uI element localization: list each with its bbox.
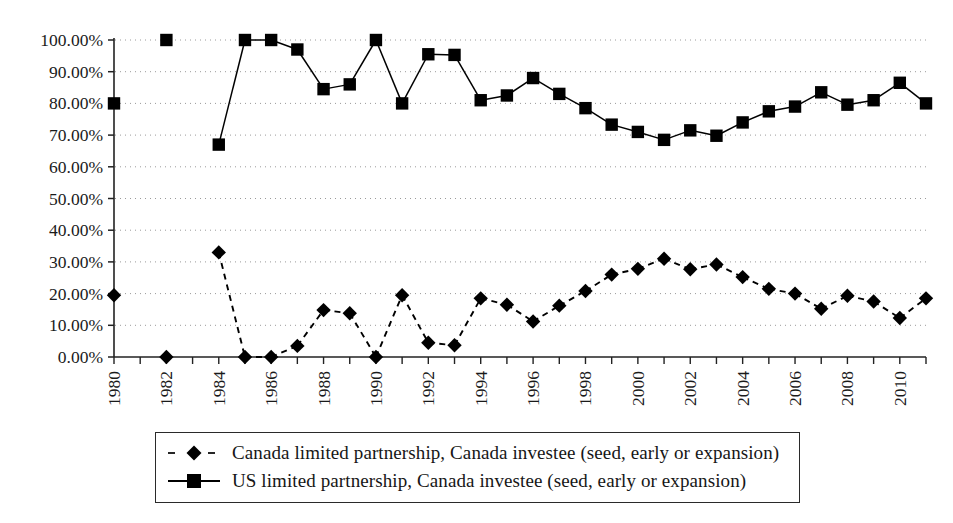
x-axis-tick-labels: 1980198219841986198819901992199419961998… — [104, 371, 910, 406]
x-tick-label: 2000 — [628, 371, 648, 406]
series-line-segment — [219, 40, 245, 145]
data-point-marker — [578, 284, 592, 298]
data-point-marker — [264, 350, 278, 364]
y-axis-ticks — [108, 40, 114, 357]
data-point-marker — [579, 102, 591, 114]
series-line-segment — [219, 252, 245, 357]
gridlines — [115, 40, 926, 325]
data-point-marker — [160, 34, 172, 46]
data-point-marker — [840, 289, 854, 303]
data-point-marker — [290, 339, 304, 353]
data-point-marker — [632, 126, 644, 138]
data-point-marker — [763, 105, 775, 117]
data-point-marker — [762, 282, 776, 296]
data-point-marker — [683, 262, 697, 276]
data-point-marker — [553, 88, 565, 100]
data-point-marker — [893, 311, 907, 325]
data-point-marker — [316, 303, 330, 317]
data-point-marker — [735, 270, 749, 284]
series-line-segment — [455, 298, 481, 345]
x-tick-label: 2006 — [785, 371, 805, 406]
series-line-segment — [350, 40, 376, 84]
x-tick-label: 1996 — [523, 371, 543, 406]
x-axis-ticks — [114, 357, 926, 364]
data-point-marker — [291, 43, 303, 55]
legend-item-us: US limited partnership, Canada investee … — [166, 467, 789, 495]
data-point-marker — [710, 130, 722, 142]
data-point-marker — [448, 49, 460, 61]
data-point-marker — [344, 78, 356, 90]
plot-area: 0.00%10.00%20.00%30.00%40.00%50.00%60.00… — [0, 0, 953, 430]
data-point-marker — [475, 94, 487, 106]
data-point-marker — [500, 297, 514, 311]
series-line-segment — [297, 310, 323, 346]
data-point-marker — [447, 338, 461, 352]
data-point-marker — [527, 72, 539, 84]
series-line-segment — [402, 54, 428, 103]
data-point-marker — [369, 350, 383, 364]
data-point-marker — [605, 118, 617, 130]
data-point-marker — [396, 97, 408, 109]
series-line-segment — [350, 313, 376, 357]
x-tick-label: 1988 — [314, 371, 334, 406]
data-point-marker — [866, 294, 880, 308]
y-axis-tick-labels: 0.00%10.00%20.00%30.00%40.00%50.00%60.00… — [40, 30, 103, 367]
data-point-marker — [920, 97, 932, 109]
chart-figure: 0.00%10.00%20.00%30.00%40.00%50.00%60.00… — [0, 0, 953, 523]
y-tick-label: 80.00% — [49, 93, 103, 113]
data-point-marker — [894, 77, 906, 89]
series-line-segment — [376, 295, 402, 357]
x-tick-label: 1984 — [209, 371, 229, 406]
data-point-marker — [526, 314, 540, 328]
data-point-marker — [421, 336, 435, 350]
x-tick-label: 1986 — [261, 371, 281, 406]
x-tick-label: 2010 — [890, 371, 910, 406]
data-point-marker — [657, 252, 671, 266]
data-point-marker — [788, 286, 802, 300]
y-tick-label: 40.00% — [49, 220, 103, 240]
data-point-marker — [658, 134, 670, 146]
x-tick-label: 2004 — [733, 371, 753, 406]
y-tick-label: 60.00% — [49, 157, 103, 177]
data-point-marker — [317, 83, 329, 95]
data-point-marker — [814, 302, 828, 316]
line-chart-svg: 0.00%10.00%20.00%30.00%40.00%50.00%60.00… — [0, 0, 953, 430]
legend-label-canada: Canada limited partnership, Canada inves… — [222, 442, 779, 464]
data-point-marker — [867, 94, 879, 106]
data-point-marker — [709, 257, 723, 271]
data-point-marker — [343, 306, 357, 320]
data-point-marker — [212, 245, 226, 259]
data-point-marker — [239, 34, 251, 46]
series-line-segment — [376, 40, 402, 103]
legend-label-us: US limited partnership, Canada investee … — [222, 470, 746, 492]
data-point-marker — [265, 34, 277, 46]
x-tick-label: 2002 — [680, 371, 700, 406]
x-tick-label: 1980 — [104, 371, 124, 406]
x-tick-label: 1998 — [575, 371, 595, 406]
x-tick-label: 1992 — [418, 371, 438, 406]
data-point-marker — [631, 262, 645, 276]
legend-item-canada: Canada limited partnership, Canada inves… — [166, 439, 789, 467]
legend-swatch-square-icon — [166, 471, 222, 491]
data-point-marker — [841, 98, 853, 110]
data-point-marker — [238, 350, 252, 364]
x-tick-label: 2008 — [837, 371, 857, 406]
data-point-marker — [604, 267, 618, 281]
y-tick-label: 70.00% — [49, 125, 103, 145]
y-tick-label: 0.00% — [58, 347, 103, 367]
series-line-segment — [402, 295, 428, 343]
data-point-marker — [108, 97, 120, 109]
chart-legend: Canada limited partnership, Canada inves… — [155, 432, 800, 503]
y-tick-label: 50.00% — [49, 189, 103, 209]
data-point-marker — [789, 100, 801, 112]
data-point-marker — [107, 288, 121, 302]
x-tick-label: 1990 — [366, 371, 386, 406]
y-tick-label: 100.00% — [40, 30, 103, 50]
data-point-marker — [159, 350, 173, 364]
data-point-marker — [552, 298, 566, 312]
data-point-marker — [501, 89, 513, 101]
x-tick-label: 1982 — [156, 371, 176, 406]
x-tick-label: 1994 — [471, 371, 491, 406]
data-point-marker — [213, 138, 225, 150]
y-tick-label: 20.00% — [49, 284, 103, 304]
